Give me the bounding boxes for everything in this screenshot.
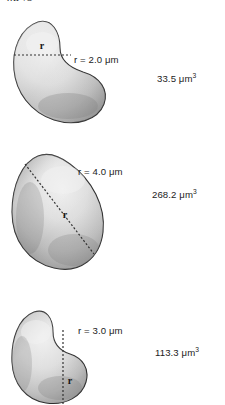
volume-exponent-2: 3: [193, 188, 197, 195]
volume-label-3: 113.3 μm3: [155, 346, 199, 358]
comma-shaped-cell: r: [8, 306, 118, 405]
bean-shaped-cell-drawing: r: [8, 14, 118, 132]
cell-volume-figure: 4πr³/3: [0, 0, 225, 405]
volume-exponent-3: 3: [195, 346, 199, 353]
cell-row-3: r r = 3.0 μm 113.3 μm3: [0, 306, 225, 405]
comma-shaped-cell-drawing: r: [8, 306, 118, 405]
formula-caption: 4πr³/3: [4, 0, 33, 3]
volume-exponent-1: 3: [193, 72, 197, 79]
radius-marker-label: r: [63, 209, 68, 220]
volume-value-1: 33.5 μm: [157, 73, 193, 84]
volume-label-2: 268.2 μm3: [152, 188, 197, 200]
cell-shading: [8, 14, 118, 132]
radius-label-3: r = 3.0 μm: [78, 325, 123, 336]
bean-shaped-cell: r: [8, 14, 118, 132]
cell-row-1: r r = 2.0 μm 33.5 μm3: [0, 14, 225, 132]
radius-marker-label: r: [40, 40, 45, 51]
cell-row-2: r r = 4.0 μm 268.2 μm3: [0, 146, 225, 278]
volume-value-3: 113.3 μm: [155, 347, 195, 358]
radius-label-1: r = 2.0 μm: [74, 54, 119, 65]
volume-label-1: 33.5 μm3: [157, 72, 196, 84]
volume-value-2: 268.2 μm: [152, 189, 193, 200]
radius-marker-label: r: [68, 375, 73, 386]
radius-label-2: r = 4.0 μm: [78, 166, 123, 177]
